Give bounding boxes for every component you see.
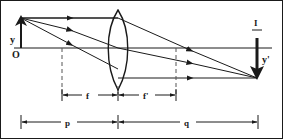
label-image-height: y' [262,54,270,65]
label-image-marker: I [254,18,258,28]
label-origin: O [12,49,20,60]
dim-f-label-bg [82,89,98,101]
label-focal-right: f' [143,91,149,101]
label-image-distance: q [184,118,189,128]
label-object-height: y [10,34,15,45]
label-object-distance: p [65,118,70,128]
diagram-canvas: y O I y' f f' p q [0,0,283,139]
figure-border [1,1,283,139]
thin-lens-ray-diagram: y O I y' f f' p q [0,0,283,139]
